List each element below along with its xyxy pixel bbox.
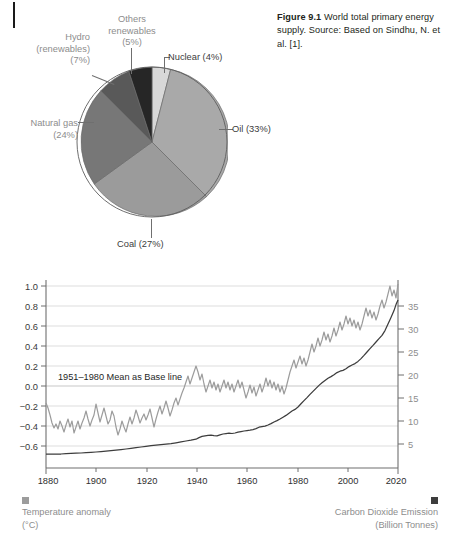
svg-text:0.8: 0.8: [25, 302, 38, 312]
baseline-annotation: 1951–1980 Mean as Base line: [58, 372, 182, 382]
svg-text:5: 5: [408, 440, 413, 450]
legend-swatch-co2: [431, 497, 438, 504]
pie-label-hydro-line3: (7%): [6, 55, 90, 67]
pie-chart-figure: Others renewables (5%) Hydro (renewables…: [0, 0, 272, 262]
x-axis-ticks: [46, 468, 398, 474]
svg-text:15: 15: [408, 394, 418, 404]
pie-label-others-line1: Others: [100, 14, 164, 26]
pie-label-coal: Coal (27%): [117, 239, 164, 251]
svg-text:0.2: 0.2: [25, 362, 38, 372]
y-axis-right-ticks: [398, 306, 404, 444]
x-axis-labels: 1880 1900 1920 1940 1960 1980 2000 2020: [38, 476, 407, 486]
svg-text:0.6: 0.6: [25, 322, 38, 332]
series-temperature-anomaly: [46, 284, 398, 435]
svg-text:−0.4: −0.4: [20, 422, 38, 432]
svg-text:1900: 1900: [86, 476, 107, 486]
svg-text:1960: 1960: [237, 476, 258, 486]
pie-label-natural-gas-line2: (24%): [4, 130, 78, 142]
svg-text:0.0: 0.0: [25, 382, 38, 392]
svg-text:1940: 1940: [187, 476, 208, 486]
pie-label-oil: Oil (33%): [232, 124, 271, 136]
legend-co2-emission: Carbon Dioxide Emission (Billion Tonnes): [260, 497, 438, 531]
svg-text:1920: 1920: [137, 476, 158, 486]
svg-text:30: 30: [408, 325, 418, 335]
y-axis-right-labels: 35 30 25 20 15 10 5: [408, 302, 418, 450]
legend-temperature-line1: Temperature anomaly: [22, 506, 111, 519]
pie-label-nuclear: Nuclear (4%): [168, 52, 222, 64]
pie-label-hydro-line2: (renewables): [6, 44, 90, 56]
figure-caption-label: Figure 9.1: [277, 12, 321, 22]
svg-text:−0.6: −0.6: [20, 442, 38, 452]
svg-text:35: 35: [408, 302, 418, 312]
leader-line-nuclear-v: [164, 57, 165, 73]
legend-swatch-temperature: [22, 497, 29, 504]
svg-text:0.4: 0.4: [25, 342, 38, 352]
leader-line-natural-gas: [78, 122, 94, 123]
svg-text:1.0: 1.0: [25, 282, 38, 292]
y-axis-left-labels: 1.0 0.8 0.6 0.4 0.2 0.0 −0.2 −0.4 −0.6: [20, 282, 38, 452]
legend-temperature-line2: (°C): [22, 519, 111, 532]
pie-label-hydro: Hydro (renewables) (7%): [6, 32, 90, 67]
pie-chart-svg: [76, 66, 228, 218]
legend-co2-line2: (Billion Tonnes): [260, 519, 438, 532]
svg-text:2020: 2020: [386, 476, 407, 486]
pie-label-others-renewables: Others renewables (5%): [100, 14, 164, 49]
pie-label-natural-gas: Natural gas (24%): [4, 118, 78, 141]
svg-text:1980: 1980: [288, 476, 309, 486]
svg-text:10: 10: [408, 417, 418, 427]
leader-line-oil: [219, 129, 233, 130]
figure-caption: Figure 9.1 World total primary energy su…: [277, 11, 447, 51]
pie-label-natural-gas-line1: Natural gas: [4, 118, 78, 130]
pie-label-others-line2: renewables: [100, 26, 164, 38]
svg-text:−0.2: −0.2: [20, 402, 38, 412]
svg-text:1880: 1880: [38, 476, 59, 486]
svg-text:2000: 2000: [338, 476, 359, 486]
line-chart: 1.0 0.8 0.6 0.4 0.2 0.0 −0.2 −0.4 −0.6 3…: [8, 272, 444, 490]
gridlines: [46, 286, 398, 446]
leader-line-coal: [151, 219, 152, 238]
pie-label-hydro-line1: Hydro: [6, 32, 90, 44]
line-chart-svg: 1.0 0.8 0.6 0.4 0.2 0.0 −0.2 −0.4 −0.6 3…: [8, 272, 444, 490]
pie-label-others-line3: (5%): [100, 37, 164, 49]
legend-co2-line1: Carbon Dioxide Emission: [260, 506, 438, 519]
y-axis-left-ticks: [41, 286, 46, 446]
pie-chart: [76, 66, 228, 218]
legend-temperature-anomaly: Temperature anomaly (°C): [22, 497, 111, 531]
line-chart-figure: 1.0 0.8 0.6 0.4 0.2 0.0 −0.2 −0.4 −0.6 3…: [8, 272, 444, 545]
svg-text:25: 25: [408, 348, 418, 358]
figure-page: Figure 9.1 World total primary energy su…: [0, 0, 452, 545]
leader-line-others: [131, 48, 132, 74]
svg-text:20: 20: [408, 371, 418, 381]
